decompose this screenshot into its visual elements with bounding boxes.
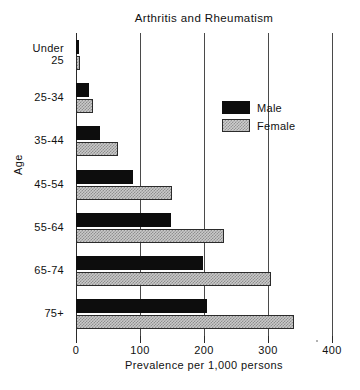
chart-legend: MaleFemale <box>222 100 322 136</box>
gridline-300 <box>268 33 269 336</box>
x-axis-title: Prevalence per 1,000 persons <box>76 359 332 371</box>
bar-female-55-64 <box>76 229 224 243</box>
x-tick-mark-400 <box>332 336 333 343</box>
x-tick-label-0: 0 <box>56 344 96 356</box>
bar-female-75+ <box>76 315 294 329</box>
y-tick-55-64: 55-64 <box>34 221 70 233</box>
bar-male-65-74 <box>76 256 203 270</box>
x-tick-mark-300 <box>268 336 269 343</box>
bar-female-45-54 <box>76 186 172 200</box>
gridline-200 <box>204 33 205 336</box>
y-axis-line <box>76 33 77 336</box>
x-tick-label-300: 300 <box>248 344 288 356</box>
y-tick-45-54: 45-54 <box>34 178 70 190</box>
bar-female-65-74 <box>76 272 271 286</box>
x-tick-label-400: 400 <box>312 344 352 356</box>
female-swatch <box>222 119 250 132</box>
legend-item-female: Female <box>222 118 322 133</box>
bar-male-55-64 <box>76 213 171 227</box>
y-tick-75+: 75+ <box>44 307 70 319</box>
x-tick-mark-0 <box>76 336 77 343</box>
bar-female-Under-25 <box>76 56 80 70</box>
bar-male-Under-25 <box>76 40 79 54</box>
x-tick-mark-200 <box>204 336 205 343</box>
bar-male-75+ <box>76 299 207 313</box>
bar-female-25-34 <box>76 99 93 113</box>
bar-male-25-34 <box>76 83 89 97</box>
gridline-400 <box>332 33 333 336</box>
bar-male-45-54 <box>76 170 133 184</box>
y-tick-Under-25: Under 25 <box>33 42 70 66</box>
bar-male-35-44 <box>76 126 100 140</box>
x-tick-label-200: 200 <box>184 344 224 356</box>
y-axis-title: Age <box>12 154 24 175</box>
x-tick-mark-100 <box>140 336 141 343</box>
y-axis-tick-labels: Under 2525-3435-4445-5455-6465-7475+ <box>0 33 70 336</box>
stray-speck <box>316 340 318 342</box>
plot-area <box>76 33 332 336</box>
legend-label-male: Male <box>257 102 282 114</box>
y-tick-65-74: 65-74 <box>34 264 70 276</box>
x-tick-label-100: 100 <box>120 344 160 356</box>
chart-title: Arthritis and Rheumatism <box>76 12 332 24</box>
y-tick-35-44: 35-44 <box>34 134 70 146</box>
legend-label-female: Female <box>257 120 295 132</box>
legend-item-male: Male <box>222 100 322 115</box>
male-swatch <box>222 101 250 114</box>
y-tick-25-34: 25-34 <box>34 91 70 103</box>
bar-female-35-44 <box>76 142 118 156</box>
gridline-100 <box>140 33 141 336</box>
arthritis-prevalence-bar-chart: Arthritis and Rheumatism Under 2525-3435… <box>0 0 360 390</box>
